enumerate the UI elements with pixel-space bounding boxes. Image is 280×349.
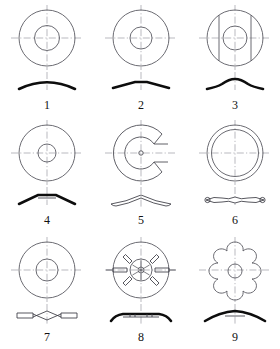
figure-grid: 1 2	[0, 0, 280, 349]
figure-4-number: 4	[44, 214, 50, 227]
figure-7-profile-view	[0, 304, 94, 330]
figure-8-number: 8	[138, 331, 144, 344]
figure-6-plan-view	[188, 120, 280, 186]
figure-3-profile-view	[188, 72, 280, 98]
figure-3-plan-view	[188, 5, 280, 71]
figure-6-number: 6	[232, 214, 238, 227]
figure-8-plan-view	[94, 237, 188, 303]
figure-2-plan-view	[94, 5, 188, 71]
figure-4: 4	[0, 116, 94, 232]
figure-3-number: 3	[232, 99, 238, 112]
figure-5-number: 5	[138, 214, 144, 227]
figure-6: 6	[188, 116, 280, 232]
figure-8: 8	[94, 233, 188, 349]
figure-1: 1	[0, 0, 94, 116]
figure-7-plan-view	[0, 237, 94, 303]
figure-7: 7	[0, 233, 94, 349]
figure-1-plan-view	[0, 5, 94, 71]
figure-9-plan-view	[188, 237, 280, 303]
figure-5-plan-view	[94, 120, 188, 186]
figure-9-number: 9	[232, 331, 238, 344]
figure-2-number: 2	[138, 99, 144, 112]
figure-8-profile-view	[94, 304, 188, 330]
figure-5-profile-view	[94, 187, 188, 213]
figure-2: 2	[94, 0, 188, 116]
figure-3: 3	[188, 0, 280, 116]
figure-4-plan-view	[0, 120, 94, 186]
figure-1-number: 1	[44, 99, 50, 112]
figure-9: 9	[188, 233, 280, 349]
figure-9-profile-view	[188, 304, 280, 330]
figure-2-profile-view	[94, 72, 188, 98]
figure-7-number: 7	[44, 331, 50, 344]
washer-types-plate: 1 2	[0, 0, 280, 349]
figure-4-profile-view	[0, 187, 94, 213]
figure-5: 5	[94, 116, 188, 232]
figure-1-profile-view	[0, 72, 94, 98]
figure-6-profile-view	[188, 187, 280, 213]
